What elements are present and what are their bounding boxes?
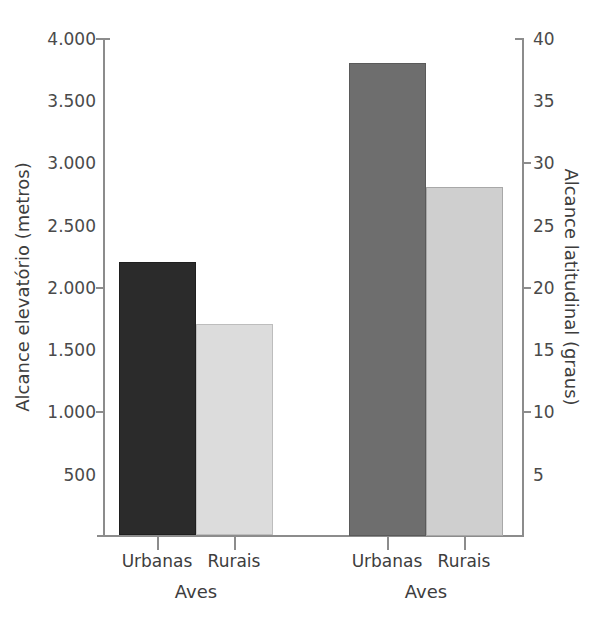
bar-left-urbanas	[119, 262, 196, 535]
left-tick-label-3500: 3.500	[47, 93, 96, 110]
group-label-left: Aves	[146, 583, 246, 601]
right-tick-20	[524, 287, 531, 289]
left-tick-label-2500: 2.500	[47, 218, 96, 235]
left-tick-1000	[96, 411, 103, 413]
right-tick-label-25: 25	[533, 218, 555, 235]
right-y-axis-title: Alcance latitudinal (graus)	[554, 38, 580, 536]
left-tick-label-500: 500	[64, 467, 96, 484]
left-tick-label-1500: 1.500	[47, 342, 96, 359]
category-label-left-urbanas: Urbanas	[107, 553, 207, 570]
category-label-left-rurais: Rurais	[194, 553, 274, 570]
right-y-axis-top-cap	[515, 38, 522, 40]
left-tick-label-1000: 1.000	[47, 404, 96, 421]
left-tick-label-3000: 3.000	[47, 155, 96, 172]
bar-right-urbanas	[349, 63, 426, 536]
category-label-right-rurais: Rurais	[424, 553, 504, 570]
right-tick-label-35: 35	[533, 93, 555, 110]
right-tick-label-40: 40	[533, 31, 555, 48]
left-y-axis-top-cap	[103, 38, 110, 40]
right-tick-10	[524, 411, 531, 413]
left-tick-label-2000: 2.000	[47, 280, 96, 297]
right-tick-30	[524, 162, 531, 164]
left-y-axis-line	[103, 38, 105, 536]
right-tick-label-5: 5	[533, 467, 544, 484]
left-tick-2000	[96, 287, 103, 289]
bar-right-rurais	[426, 187, 503, 536]
category-label-right-urbanas: Urbanas	[337, 553, 437, 570]
group-label-right: Aves	[376, 583, 476, 601]
bar-left-rurais	[196, 324, 273, 535]
bar-chart-figure: 4.000 3.500 3.000 2.500 2.000 1.500 1.00…	[0, 0, 594, 622]
xtick-left-rurais	[234, 537, 236, 550]
xtick-right-urbanas	[387, 537, 389, 550]
right-tick-label-30: 30	[533, 155, 555, 172]
right-tick-label-20: 20	[533, 280, 555, 297]
left-y-axis-title: Alcance elevatório (metros)	[14, 38, 40, 536]
xtick-right-rurais	[464, 537, 466, 550]
right-tick-label-15: 15	[533, 342, 555, 359]
xtick-left-urbanas	[157, 537, 159, 550]
left-tick-4000	[96, 38, 103, 40]
left-tick-label-4000: 4.000	[47, 31, 96, 48]
right-tick-label-10: 10	[533, 404, 555, 421]
